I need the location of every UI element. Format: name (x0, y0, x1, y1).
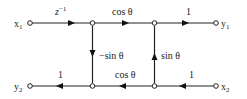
node-x2 (214, 84, 219, 89)
arrow-n1-n2 (122, 20, 129, 26)
label-sin: sin θ (161, 50, 180, 61)
label-top-one: 1 (186, 6, 191, 17)
arrow-n4-n3 (119, 83, 126, 89)
node-n4 (152, 84, 157, 89)
label-y2: y2 (14, 81, 23, 94)
label-neg-sin: −sin θ (99, 50, 124, 61)
node-y1 (214, 21, 219, 26)
label-top-cos: cos θ (112, 6, 133, 17)
node-y2 (28, 84, 33, 89)
label-x1: x1 (14, 18, 23, 31)
arrow-x1-n1 (68, 20, 75, 26)
label-bottom-cos: cos θ (115, 69, 136, 80)
arrow-x2-n4 (179, 83, 186, 89)
node-n2 (152, 21, 157, 26)
arrow-n2-y1 (182, 20, 189, 26)
label-bottom-right-one: 1 (189, 69, 194, 80)
arrow-n3-y2 (56, 83, 63, 89)
node-n3 (90, 84, 95, 89)
node-x1 (28, 21, 33, 26)
label-y1: y1 (221, 18, 230, 31)
label-bottom-left-one: 1 (58, 69, 63, 80)
arrow-n4-n2 (152, 53, 158, 60)
label-x2: x2 (221, 81, 230, 94)
node-n1 (90, 21, 95, 26)
signal-flow-graph: x1 y1 y2 x2 z−1 cos θ 1 −sin θ sin θ cos… (0, 0, 247, 99)
label-z-inverse: z−1 (54, 5, 67, 17)
arrow-n1-n3 (90, 50, 96, 57)
